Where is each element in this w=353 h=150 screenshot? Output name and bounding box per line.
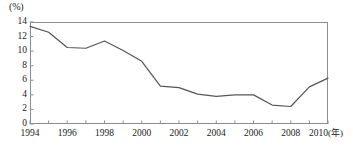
x-tick-label-1994: 1994 [21,128,40,138]
x-tick-label-2000: 2000 [132,128,151,138]
x-tick-label-2008: 2008 [281,128,300,138]
x-tick-label-2006: 2006 [244,128,263,138]
x-tick-label-1998: 1998 [95,128,114,138]
x-tick-label-2002: 2002 [170,128,189,138]
x-tick-label-2010: 2010(年) [309,128,343,138]
line-chart: (%) 02468101214 199419961998200020022004… [0,0,353,150]
x-tick-label-2004: 2004 [207,128,226,138]
x-axis-unit-label: (年) [328,128,343,138]
x-tick-label-1996: 1996 [58,128,77,138]
x-tick-label-year-value: 2010 [309,128,328,138]
x-axis-tick-labels: 199419961998200020022004200620082010(年) [0,0,353,150]
